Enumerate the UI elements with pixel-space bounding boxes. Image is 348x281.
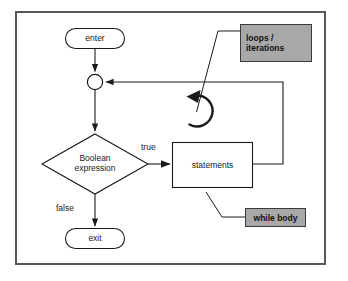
node-exit-shape[interactable] [66, 229, 125, 249]
edge-label-true: true [141, 142, 156, 152]
leader-line-loops [197, 31, 241, 112]
callout-loops-line2: iterations [246, 43, 311, 53]
callout-loops-iterations[interactable]: loops / iterations [240, 24, 312, 62]
node-enter-shape[interactable] [66, 29, 125, 49]
edge-label-false: false [56, 203, 74, 213]
node-statements-shape[interactable] [173, 143, 253, 188]
callout-loops-line1: loops / [246, 33, 311, 43]
diagram-canvas: enter Boolean expression statements exit… [0, 0, 348, 281]
leader-line-while-body [206, 192, 245, 217]
node-merge-shape[interactable] [87, 74, 102, 89]
circular-arrow-head-icon [187, 90, 201, 103]
callout-while-body-line1: while body [254, 213, 298, 223]
callout-while-body[interactable]: while body [245, 208, 306, 227]
node-condition-shape[interactable] [42, 134, 148, 194]
